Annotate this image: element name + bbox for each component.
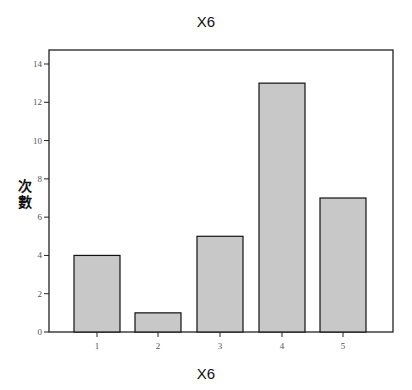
bar-4: [259, 83, 305, 332]
x-tick-label: 1: [95, 341, 100, 351]
y-tick-label: 4: [38, 250, 43, 260]
x-tick-label: 5: [341, 341, 346, 351]
y-tick-label: 2: [38, 289, 43, 299]
bar-3: [197, 236, 243, 332]
y-tick-label: 6: [38, 212, 43, 222]
bar-2: [135, 313, 181, 332]
y-tick-label: 12: [33, 97, 42, 107]
y-tick-label: 10: [33, 136, 43, 146]
x-tick-label: 4: [280, 341, 285, 351]
y-tick-label: 14: [33, 59, 43, 69]
bar-1: [74, 255, 120, 332]
x-tick-label: 3: [218, 341, 223, 351]
x-tick-label: 2: [156, 341, 161, 351]
bar-5: [320, 198, 366, 332]
y-tick-label: 8: [38, 174, 43, 184]
y-tick-label: 0: [38, 327, 43, 337]
bar-chart: 0246810121412345: [0, 0, 412, 390]
